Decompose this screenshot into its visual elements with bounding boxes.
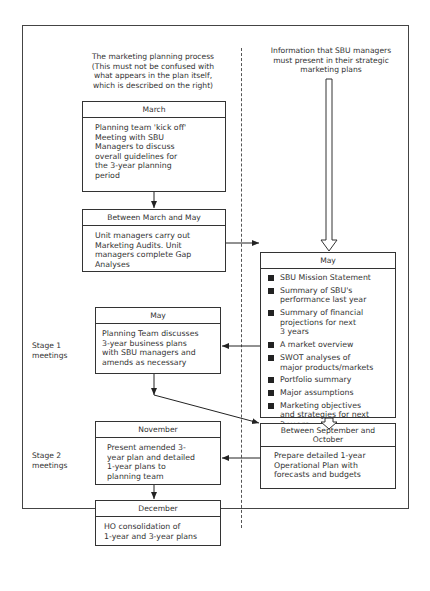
hollow-arrow-to-sep-oct (321, 418, 337, 429)
arrow-to-sep-oct (154, 395, 259, 423)
connector-arrows (0, 0, 430, 591)
hollow-arrow-to-may-right (321, 79, 337, 251)
